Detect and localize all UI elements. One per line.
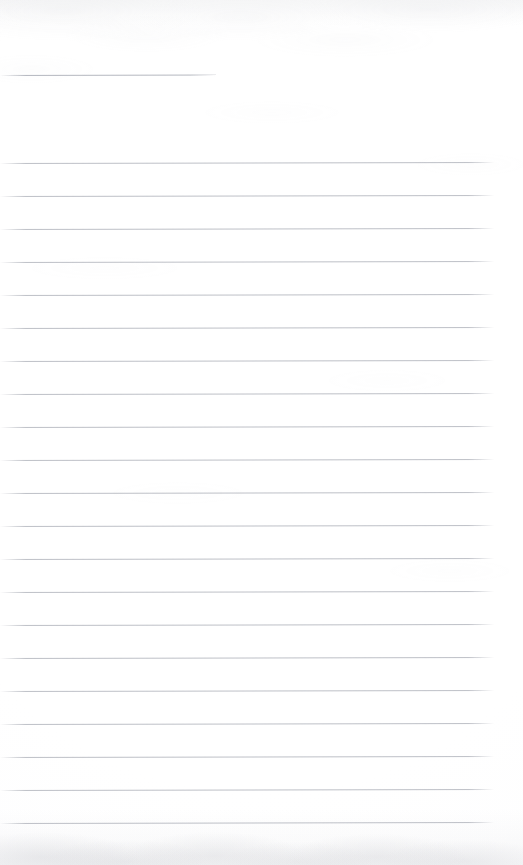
ruled-line — [0, 327, 494, 329]
ruled-line — [0, 459, 494, 461]
ruled-line — [0, 393, 494, 395]
ruled-line — [0, 591, 494, 593]
ruled-line — [0, 525, 494, 527]
ruled-line — [0, 723, 494, 725]
ruled-line — [0, 789, 494, 791]
ruled-line — [0, 261, 494, 263]
ruled-line — [0, 492, 494, 494]
ruled-line — [0, 195, 494, 197]
ruled-line — [0, 75, 216, 76]
ruled-line — [0, 690, 494, 692]
ruled-line — [0, 162, 494, 164]
ruled-line — [0, 228, 494, 230]
ruled-line — [0, 360, 494, 362]
ruled-line — [0, 822, 494, 824]
ruled-lines-group — [0, 0, 523, 865]
scanned-page — [0, 0, 523, 865]
ruled-line — [0, 657, 494, 659]
ruled-line — [0, 294, 494, 296]
ruled-line — [0, 558, 494, 560]
ruled-line — [0, 624, 494, 626]
ruled-line — [0, 426, 494, 428]
ruled-line — [0, 756, 494, 758]
